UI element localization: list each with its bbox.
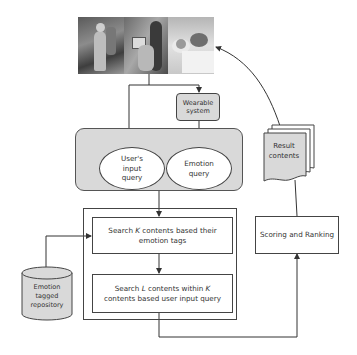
text-segment: contents based their emotion tags bbox=[139, 226, 217, 245]
user-input-query-label: User's input query bbox=[112, 154, 152, 183]
text-segment: contents based user input query bbox=[104, 294, 221, 303]
scoring-ranking-label: Scoring and Ranking bbox=[260, 230, 334, 240]
search-l-contents-box: Search L contents within K contents base… bbox=[92, 274, 233, 313]
search-k-contents-box: Search K contents based their emotion ta… bbox=[92, 217, 233, 254]
search-k-contents-label: Search K contents based their emotion ta… bbox=[100, 226, 225, 245]
search-l-contents-label: Search L contents within K contents base… bbox=[104, 284, 222, 303]
emotion-query-label: Emotion query bbox=[181, 159, 217, 178]
result-contents-label: Result contents bbox=[266, 141, 302, 161]
text-segment: contents within bbox=[146, 284, 206, 293]
wearable-system-box: Wearable system bbox=[176, 93, 220, 121]
wearable-system-label: Wearable system bbox=[177, 99, 219, 116]
emotion-query-ellipse: Emotion query bbox=[166, 147, 232, 190]
user-input-query-ellipse: User's input query bbox=[99, 147, 165, 190]
scoring-ranking-box: Scoring and Ranking bbox=[255, 216, 339, 254]
text-segment: Search bbox=[115, 284, 142, 293]
text-segment: Search bbox=[108, 226, 135, 235]
variable-k: K bbox=[206, 284, 211, 293]
repository-label: Emotion tagged repository bbox=[22, 283, 72, 310]
